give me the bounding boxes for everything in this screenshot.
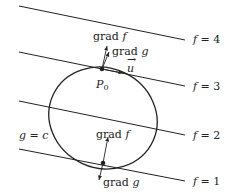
constraint-label: g = c [19,129,48,142]
u-vector-hat: → [127,53,136,66]
grad-f-top-label: grad f [93,30,128,43]
grad-g-bottom-label: grad g [103,176,139,189]
lagrange-diagram: f = 4 f = 3 f = 2 f = 1 g = c grad f gra… [0,0,235,193]
level-label-f1: f = 1 [192,175,220,188]
grad-f-bottom-label: grad f [96,128,131,141]
level-label-f4: f = 4 [192,33,220,46]
level-label-f2: f = 2 [192,129,220,142]
level-label-f3: f = 3 [192,80,220,93]
point-p0-label: P0 [95,78,109,92]
